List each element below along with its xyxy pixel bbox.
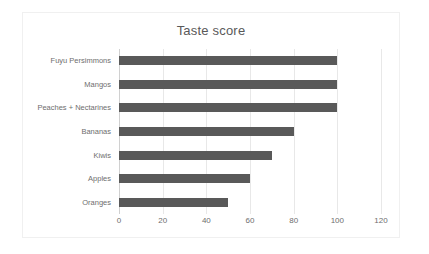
bar-row <box>119 167 381 191</box>
tick-label-100: 100 <box>331 216 344 225</box>
bar-row <box>119 120 381 144</box>
bar-row <box>119 49 381 73</box>
bar-row <box>119 143 381 167</box>
tick-label-120: 120 <box>374 216 387 225</box>
bar <box>119 174 250 183</box>
tick-label-40: 40 <box>202 216 211 225</box>
bar <box>119 56 337 65</box>
bar <box>119 151 272 160</box>
plot-area <box>119 49 381 214</box>
category-label: Oranges <box>23 190 111 214</box>
category-label: Kiwis <box>23 143 111 167</box>
category-label: Bananas <box>23 120 111 144</box>
tick-label-80: 80 <box>289 216 298 225</box>
category-label: Peaches + Nectarines <box>23 96 111 120</box>
category-label: Fuyu Persimmons <box>23 49 111 73</box>
bar <box>119 103 337 112</box>
tick-label-0: 0 <box>117 216 121 225</box>
tick-label-60: 60 <box>246 216 255 225</box>
bar <box>119 80 337 89</box>
tick-label-20: 20 <box>158 216 167 225</box>
bar-row <box>119 73 381 97</box>
bar-row <box>119 190 381 214</box>
bar <box>119 127 294 136</box>
bar <box>119 198 228 207</box>
chart-container: Taste score Fuyu PersimmonsMangosPeaches… <box>22 12 400 238</box>
category-axis-labels: Fuyu PersimmonsMangosPeaches + Nectarine… <box>23 49 115 214</box>
chart-title: Taste score <box>23 23 399 38</box>
category-label: Apples <box>23 167 111 191</box>
value-axis-tick-labels: 020406080100120 <box>119 216 381 230</box>
bar-row <box>119 96 381 120</box>
bar-series <box>119 49 381 214</box>
gridline-120 <box>381 49 382 214</box>
category-label: Mangos <box>23 73 111 97</box>
